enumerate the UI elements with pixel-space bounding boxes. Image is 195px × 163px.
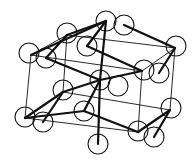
bond [138,110,170,132]
cell-edge [63,35,67,92]
atom [108,76,128,96]
cell-edge [170,48,175,110]
atomic-bonds [25,21,175,144]
cell-edge [142,48,175,71]
cell-edge [63,92,170,110]
bond [159,48,175,73]
bond [154,110,170,137]
crystal-lattice-diagram [0,0,195,163]
bond [43,92,63,122]
